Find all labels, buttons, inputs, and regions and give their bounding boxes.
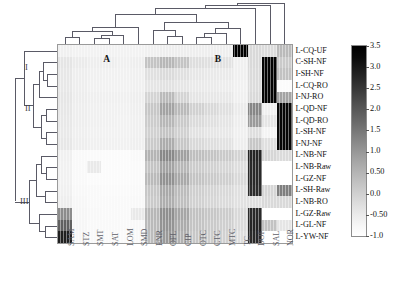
heatmap-cell <box>262 173 277 185</box>
heatmap-cell <box>160 68 175 80</box>
heatmap-cell <box>131 208 146 220</box>
dendrogram-segment <box>101 35 102 38</box>
heatmap-cell <box>87 208 102 220</box>
dendrogram-segment <box>45 191 58 192</box>
colorbar-tick-mark <box>366 109 369 110</box>
heatmap-cell <box>145 92 160 104</box>
heatmap-cell <box>116 57 131 69</box>
row-dendrogram <box>0 46 58 283</box>
heatmap-cell <box>189 92 204 104</box>
heatmap-cell <box>277 127 292 139</box>
heatmap-cell <box>160 103 175 115</box>
heatmap-cell <box>131 185 146 197</box>
heatmap-cell <box>87 57 102 69</box>
heatmap-cell <box>145 208 160 220</box>
heatmap-cell <box>218 196 233 208</box>
heatmap-cell <box>72 103 87 115</box>
heatmap-cell <box>87 45 102 57</box>
dendrogram-segment <box>196 37 211 38</box>
row-label: L-GZ-NF <box>296 175 327 183</box>
heatmap-cell <box>189 57 204 69</box>
dendrogram-segment <box>43 62 58 63</box>
heatmap-cell <box>160 185 175 197</box>
dendrogram-segment <box>43 62 44 79</box>
heatmap-cell <box>101 138 116 150</box>
row-label: L-SH-Raw <box>296 186 331 194</box>
heatmap-cell <box>175 57 190 69</box>
heatmap-cell <box>101 103 116 115</box>
heatmap-cell <box>233 185 248 197</box>
dendrogram-segment <box>115 14 195 15</box>
colorbar-tick-label: -0.50 <box>370 211 387 219</box>
heatmap-cell <box>175 220 190 232</box>
dendrogram-segment <box>46 132 47 144</box>
heatmap-cell <box>160 173 175 185</box>
heatmap-cell <box>145 57 160 69</box>
dendrogram-segment <box>46 179 58 180</box>
column-label: DOF <box>258 230 266 246</box>
heatmap-cell <box>131 115 146 127</box>
heatmap-cell <box>160 138 175 150</box>
heatmap-cell <box>277 57 292 69</box>
heatmap-cell <box>72 127 87 139</box>
heatmap-cell <box>175 173 190 185</box>
dendrogram-segment <box>79 37 80 45</box>
dendrogram-segment <box>196 14 197 22</box>
row-label: L-SH-NF <box>296 128 326 136</box>
heatmap-cell <box>145 45 160 57</box>
heatmap-cell <box>204 161 219 173</box>
dendrogram-segment <box>228 22 229 28</box>
dendrogram-segment <box>46 109 47 121</box>
heatmap-cell <box>101 196 116 208</box>
heatmap-cell <box>204 68 219 80</box>
heatmap-cell <box>160 92 175 104</box>
heatmap-cell <box>262 208 277 220</box>
heatmap-cell <box>145 103 160 115</box>
heatmap-cell <box>189 138 204 150</box>
heatmap-cell <box>58 127 73 139</box>
heatmap-cell <box>277 161 292 173</box>
dendrogram-segment <box>92 27 138 28</box>
heatmap-cell <box>248 138 263 150</box>
heatmap-cell <box>131 80 146 92</box>
heatmap-cell <box>233 45 248 57</box>
heatmap-cell <box>175 103 190 115</box>
row-cluster-iii: III <box>20 196 29 206</box>
dendrogram-segment <box>215 28 241 29</box>
heatmap-cell <box>189 103 204 115</box>
column-label: OFL <box>170 231 178 246</box>
heatmap-cell <box>72 45 87 57</box>
heatmap-cell <box>248 196 263 208</box>
dendrogram-segment <box>101 35 123 36</box>
heatmap-cell <box>145 161 160 173</box>
heatmap-cell <box>277 196 292 208</box>
heatmap-cell <box>101 208 116 220</box>
dendrogram-segment <box>45 191 46 203</box>
heatmap-cell <box>116 161 131 173</box>
heatmap-cell <box>277 115 292 127</box>
heatmap-cell <box>58 103 73 115</box>
heatmap-cell <box>101 150 116 162</box>
dendrogram-segment <box>164 22 165 30</box>
heatmap-cell <box>116 208 131 220</box>
heatmap-cell <box>145 185 160 197</box>
dendrogram-segment <box>33 127 41 128</box>
heatmap-cell <box>145 68 160 80</box>
column-label: ENR <box>156 230 164 246</box>
heatmap-cell <box>58 161 73 173</box>
heatmap-cell <box>58 92 73 104</box>
dendrogram-segment <box>39 214 58 215</box>
heatmap-cell <box>204 92 219 104</box>
dendrogram-segment <box>92 27 93 31</box>
heatmap-cell <box>218 138 233 150</box>
heatmap-cell <box>87 103 102 115</box>
heatmap-cell <box>218 161 233 173</box>
heatmap-cell <box>131 127 146 139</box>
heatmap-cell <box>248 115 263 127</box>
colorbar-tick-mark <box>366 215 369 216</box>
heatmap-cell <box>131 161 146 173</box>
heatmap-cell <box>233 208 248 220</box>
row-label: I-NJ-NF <box>296 140 323 148</box>
dendrogram-segment <box>215 28 216 33</box>
heatmap-cell <box>116 150 131 162</box>
